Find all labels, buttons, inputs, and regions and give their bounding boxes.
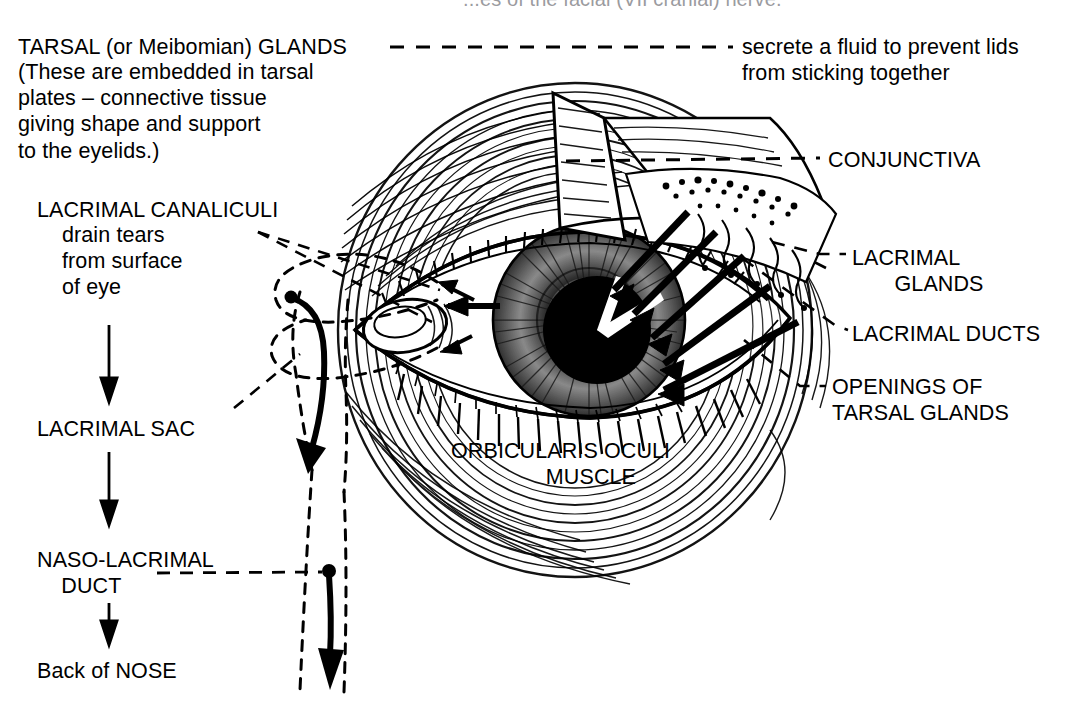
eyelid-upper bbox=[355, 176, 768, 330]
back-of-nose-label: Back of NOSE bbox=[37, 658, 177, 684]
lacrimal-caruncle bbox=[359, 293, 452, 359]
lacrimal-sac-label: LACRIMAL SAC bbox=[37, 416, 195, 442]
tear-inflow-arrow bbox=[444, 296, 500, 316]
lacrimal-drainage-dashed bbox=[271, 254, 437, 692]
lacrimal-gland-stipple bbox=[663, 176, 798, 225]
iris bbox=[493, 224, 685, 416]
naso-lacrimal-duct-label: NASO-LACRIMAL DUCT bbox=[37, 547, 214, 599]
leader-lacrimal-canaliculi bbox=[258, 232, 440, 322]
tarsal-glands-note: (These are embedded in tarsal plates – c… bbox=[18, 59, 314, 164]
openings-of-tarsal-glands-label: OPENINGS OF TARSAL GLANDS bbox=[832, 374, 1009, 426]
lacrimal-ducts-label: LACRIMAL DUCTS bbox=[852, 321, 1040, 347]
clipped-top-text: ...es of the facial (VII cranial) nerve. bbox=[463, 0, 782, 11]
duct-descent-arrow bbox=[329, 575, 331, 655]
leader-lacrimal-sac bbox=[234, 354, 300, 408]
lacrimal-canaliculi-subtitle: drain tears from surface of eye bbox=[62, 222, 183, 301]
canaliculi-origin-dot bbox=[285, 291, 298, 304]
tear-path-arrows bbox=[292, 298, 324, 448]
tarsal-glands-function: secrete a fluid to prevent lids from sti… bbox=[742, 34, 1019, 86]
leader-conjunctiva bbox=[566, 158, 820, 161]
orbicularis-oculi-muscle-label: ORBICULARIS OCULI MUSCLE bbox=[451, 438, 670, 490]
pupil bbox=[543, 276, 664, 384]
duct-openings bbox=[702, 265, 807, 311]
orbicularis-oculi-striations bbox=[338, 83, 830, 584]
lacrimal-glands-label: LACRIMAL GLANDS bbox=[852, 245, 984, 297]
tear-flow-arrows bbox=[610, 212, 798, 406]
lacrimal-ducts-tubes bbox=[698, 214, 804, 308]
leader-lacrimal-glands bbox=[772, 242, 846, 254]
sclera bbox=[355, 232, 790, 418]
tarsal-glands-title: TARSAL (or Meibomian) GLANDS bbox=[18, 34, 347, 60]
everted-lid-flap bbox=[553, 93, 836, 311]
leader-openings-tarsal bbox=[744, 340, 826, 386]
eyelid-lower bbox=[355, 318, 790, 454]
conjunctiva-label: CONJUNCTIVA bbox=[828, 147, 980, 173]
leader-lacrimal-ducts bbox=[742, 258, 848, 330]
eye-anatomy-diagram: ...es of the facial (VII cranial) nerve.… bbox=[0, 0, 1088, 727]
punctum-arrows bbox=[438, 280, 474, 354]
lacrimal-canaliculi-title: LACRIMAL CANALICULI bbox=[37, 197, 278, 223]
duct-arrowhead bbox=[318, 648, 344, 690]
naso-duct-dot bbox=[322, 564, 336, 578]
sac-arrowhead bbox=[296, 438, 326, 474]
